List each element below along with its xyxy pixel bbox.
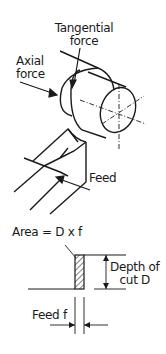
- workpiece: [60, 51, 141, 138]
- tangential-force-line2: force: [52, 35, 116, 48]
- tangential-force-label: Tangential force: [52, 22, 116, 48]
- depth-of-cut-label: Depth of cut D: [110, 261, 160, 287]
- area-label: Area = D x f: [12, 226, 82, 239]
- axial-force-label: Axial force: [16, 55, 45, 81]
- cutting-tool: [14, 129, 86, 214]
- axial-force-line2: force: [16, 68, 45, 81]
- feed-f-label: Feed f: [32, 309, 67, 322]
- chip-area: [75, 255, 84, 289]
- centerlines: [80, 84, 146, 150]
- feed-label: Feed: [89, 172, 116, 185]
- depth-line2: cut D: [110, 274, 160, 287]
